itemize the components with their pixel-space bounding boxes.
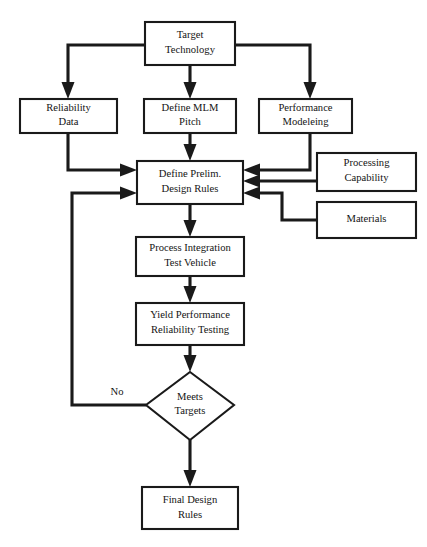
node-reliability-data-label-line2: Data <box>59 116 79 127</box>
node-target-technology[interactable]: Target Technology <box>145 22 235 65</box>
node-materials-label: Materials <box>346 213 386 224</box>
arrowhead-meets-targets-to-final <box>184 470 197 487</box>
node-final-design-rules-shape <box>142 487 238 529</box>
edge-reliability-to-prelim <box>68 133 122 170</box>
node-target-technology-label-line1: Target <box>177 29 204 40</box>
node-reliability-data-label-line1: Reliability <box>46 102 91 113</box>
arrowhead-reliability-to-prelim <box>120 164 137 177</box>
edge-target-to-performance <box>235 45 310 84</box>
node-performance-modeleing-label-line2: Modeleing <box>283 116 330 127</box>
node-reliability-data[interactable]: Reliability Data <box>20 99 117 133</box>
node-final-design-rules[interactable]: Final Design Rules <box>142 487 238 529</box>
node-define-prelim-design-rules[interactable]: Define Prelim. Design Rules <box>137 161 243 204</box>
flowchart-canvas: Target Technology Reliability Data Defin… <box>0 0 427 547</box>
node-performance-modeleing[interactable]: Performance Modeleing <box>259 99 352 133</box>
node-define-mlm-pitch[interactable]: Define MLM Pitch <box>144 99 236 133</box>
node-process-integration-test-vehicle-label-line1: Process Integration <box>149 242 231 253</box>
edge-materials-to-prelim <box>258 193 317 220</box>
node-performance-modeleing-label-line1: Performance <box>278 102 332 113</box>
flowchart-page: Target Technology Reliability Data Defin… <box>0 0 427 547</box>
node-target-technology-label-line2: Technology <box>165 44 216 55</box>
node-define-mlm-pitch-label-line2: Pitch <box>179 116 201 127</box>
node-meets-targets[interactable]: Meets Targets <box>146 372 234 440</box>
arrowhead-target-to-mlm <box>184 82 197 99</box>
node-yield-performance-reliability-testing-label-line2: Reliability Testing <box>151 324 230 335</box>
node-process-integration-test-vehicle[interactable]: Process Integration Test Vehicle <box>136 237 244 276</box>
node-materials[interactable]: Materials <box>317 202 416 238</box>
arrowhead-prelim-to-process-integration <box>184 220 197 237</box>
arrowhead-processing-to-prelim <box>243 175 260 188</box>
arrowhead-mlm-to-prelim <box>184 144 197 161</box>
arrowhead-meets-targets-no-feedback <box>120 187 137 200</box>
arrowhead-target-to-performance <box>304 82 317 99</box>
node-yield-performance-reliability-testing-label-line1: Yield Performance <box>150 309 230 320</box>
arrowhead-target-to-reliability <box>62 82 75 99</box>
edge-performance-to-prelim <box>258 133 310 170</box>
node-final-design-rules-label-line2: Rules <box>178 509 202 520</box>
node-meets-targets-label-line2: Targets <box>175 405 206 416</box>
arrowhead-process-integration-to-yield <box>184 286 197 303</box>
node-define-mlm-pitch-label-line1: Define MLM <box>162 102 219 113</box>
node-final-design-rules-label-line1: Final Design <box>163 494 218 505</box>
node-define-prelim-design-rules-label-line1: Define Prelim. <box>159 168 221 179</box>
arrowhead-materials-to-prelim <box>243 187 260 200</box>
node-define-prelim-design-rules-label-line2: Design Rules <box>162 183 219 194</box>
node-yield-performance-reliability-testing[interactable]: Yield Performance Reliability Testing <box>136 303 244 345</box>
arrowhead-performance-to-prelim <box>243 164 260 177</box>
edge-target-to-reliability <box>68 45 145 84</box>
edge-meets-targets-no-feedback <box>72 193 146 405</box>
edge-label-no: No <box>111 386 124 397</box>
node-process-integration-test-vehicle-label-line2: Test Vehicle <box>164 257 216 268</box>
node-meets-targets-label-line1: Meets <box>177 391 203 402</box>
arrowhead-yield-to-meets-targets <box>184 355 197 372</box>
node-processing-capability-label-line1: Processing <box>344 157 391 168</box>
node-processing-capability[interactable]: Processing Capability <box>317 153 416 191</box>
node-processing-capability-label-line2: Capability <box>344 172 389 183</box>
